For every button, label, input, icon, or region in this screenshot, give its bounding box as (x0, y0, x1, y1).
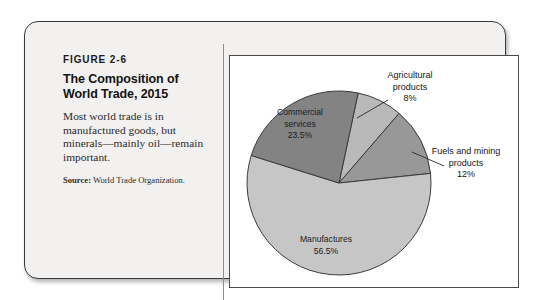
chart-panel: Agriculturalproducts8%Fuels and miningpr… (229, 55, 519, 288)
pie-slice-name: Manufactures (300, 234, 352, 244)
figure-source: Source: World Trade Organization. (63, 175, 221, 186)
figure-number: FIGURE 2-6 (63, 54, 221, 65)
pie-slice-value: 56.5% (314, 246, 339, 256)
pie-slice-value: 12% (457, 169, 475, 179)
figure-title-line2: World Trade, 2015 (63, 87, 221, 102)
pie-slice-name: Fuels and mining (432, 146, 501, 156)
figure-frame: FIGURE 2-6 The Composition of World Trad… (24, 21, 506, 279)
figure-description: Most world trade is in manufactured good… (63, 110, 213, 164)
pie-slice-name: Agricultural (387, 70, 432, 80)
figure-title-line1: The Composition of (63, 72, 221, 87)
pie-slice-value: 8% (403, 93, 416, 103)
pie-slice-name: products (449, 158, 484, 168)
figure-source-label: Source: (63, 175, 91, 185)
page-background: FIGURE 2-6 The Composition of World Trad… (0, 0, 534, 300)
figure-title: The Composition of World Trade, 2015 (63, 72, 221, 102)
figure-source-text: World Trade Organization. (91, 175, 185, 185)
pie-slices (247, 91, 431, 275)
pie-slice-name: services (284, 119, 316, 129)
pie-chart: Agriculturalproducts8%Fuels and miningpr… (230, 56, 518, 287)
pie-slice-value: 23.5% (288, 130, 313, 140)
pie-slice-name: Commercial (277, 107, 323, 117)
column-divider (223, 44, 224, 300)
pie-slice-label: Fuels and miningproducts12% (432, 146, 501, 179)
pie-slice-label: Agriculturalproducts8% (387, 70, 432, 103)
figure-caption-column: FIGURE 2-6 The Composition of World Trad… (63, 53, 221, 291)
pie-slice-name: products (393, 82, 428, 92)
